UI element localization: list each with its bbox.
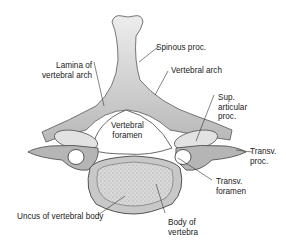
transverse-foramen-left — [68, 150, 84, 165]
label-transverse-foramen: Transv. foramen — [216, 177, 246, 196]
label-body-of-vertebra: Body of vertebra — [168, 218, 198, 237]
transverse-process-left — [28, 145, 98, 170]
vertebra-diagram: Spinous proc. Lamina of vertebral arch V… — [0, 0, 286, 244]
label-lamina-of-vertebral-arch: Lamina of vertebral arch — [42, 61, 92, 80]
label-spinous-process: Spinous proc. — [156, 43, 206, 53]
label-sup-articular-proc: Sup. articular proc. — [218, 93, 247, 122]
transverse-foramen-right — [175, 150, 191, 165]
label-vertebral-arch: Vertebral arch — [171, 66, 222, 76]
label-vertebral-foramen: Vertebral foramen — [111, 121, 144, 140]
label-transverse-process: Transv. proc. — [250, 147, 276, 166]
label-uncus-of-vertebral-body: Uncus of vertebral body — [17, 212, 103, 222]
vertebral-body-surface — [97, 162, 173, 206]
